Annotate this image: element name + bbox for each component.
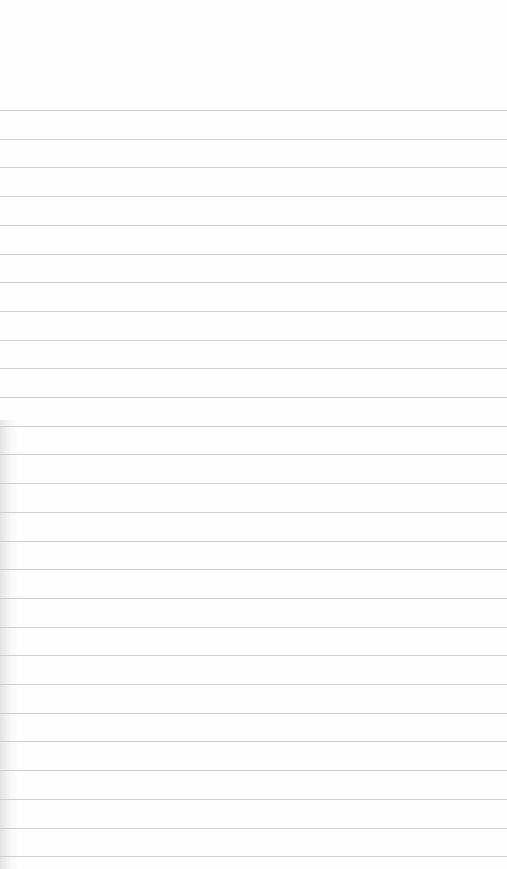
ruled-line — [0, 770, 507, 771]
ruled-line — [0, 828, 507, 829]
ruled-line — [0, 541, 507, 542]
ruled-line — [0, 684, 507, 685]
ruled-line — [0, 569, 507, 570]
ruled-line — [0, 512, 507, 513]
ruled-line — [0, 167, 507, 168]
ruled-line — [0, 397, 507, 398]
ruled-line — [0, 225, 507, 226]
ruled-line — [0, 254, 507, 255]
ruled-line — [0, 311, 507, 312]
lined-paper-page — [0, 0, 507, 869]
ruled-line — [0, 139, 507, 140]
page-edge-shadow — [0, 420, 18, 869]
ruled-line — [0, 655, 507, 656]
ruled-line — [0, 282, 507, 283]
ruled-line — [0, 340, 507, 341]
ruled-line — [0, 454, 507, 455]
ruled-line — [0, 426, 507, 427]
ruled-line — [0, 368, 507, 369]
ruled-line — [0, 856, 507, 857]
ruled-line — [0, 598, 507, 599]
ruled-line — [0, 483, 507, 484]
ruled-line — [0, 110, 507, 111]
ruled-line — [0, 799, 507, 800]
ruled-line — [0, 627, 507, 628]
ruled-line — [0, 741, 507, 742]
ruled-line — [0, 713, 507, 714]
ruled-line — [0, 196, 507, 197]
